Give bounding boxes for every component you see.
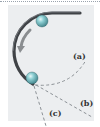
ball-top [36, 15, 48, 27]
physics-diagram: (a) (b) (c) [0, 0, 100, 127]
label-b: (b) [80, 98, 93, 108]
label-a: (a) [73, 51, 86, 61]
ball-bottom [26, 72, 38, 84]
label-c: (c) [49, 108, 62, 118]
